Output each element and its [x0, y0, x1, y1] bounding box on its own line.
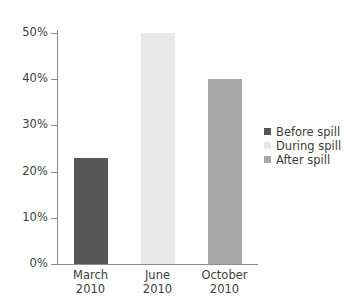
legend-swatch-icon	[264, 156, 271, 163]
legend-swatch-icon	[264, 128, 271, 135]
bar-chart: 0%10%20%30%40%50% March2010June2010Octob…	[0, 0, 361, 304]
x-tick-label: October2010	[183, 268, 267, 296]
y-tick-label: 10%	[4, 212, 48, 224]
y-tick-label: 40%	[4, 73, 48, 85]
legend-swatch-icon	[264, 142, 271, 149]
x-tick-label-month: October	[201, 268, 247, 282]
bar-3	[208, 79, 242, 264]
y-tick-label: 0%	[4, 258, 48, 270]
plot-area	[57, 33, 258, 264]
y-tick-label: 20%	[4, 166, 48, 178]
legend-item-1: Before spill	[264, 125, 341, 138]
legend-label: After spill	[276, 154, 330, 166]
x-tick-label-year: 2010	[183, 282, 267, 296]
legend-item-2: During spill	[264, 139, 341, 152]
chart-legend: Before spillDuring spillAfter spill	[264, 125, 341, 167]
legend-item-3: After spill	[264, 153, 341, 166]
legend-label: Before spill	[276, 126, 340, 138]
x-axis-line	[57, 264, 258, 265]
y-tick-label: 50%	[4, 27, 48, 39]
y-tick-label: 30%	[4, 119, 48, 131]
x-tick-label-month: June	[145, 268, 170, 282]
y-tick-mark	[51, 264, 57, 265]
legend-label: During spill	[276, 140, 341, 152]
bar-2	[141, 33, 175, 264]
x-tick-label-month: March	[73, 268, 108, 282]
bar-1	[74, 158, 108, 264]
